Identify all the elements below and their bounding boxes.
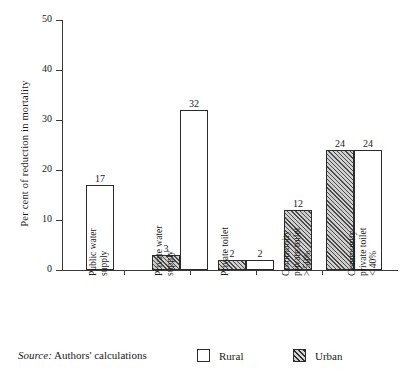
x-tick-1: [124, 271, 125, 275]
y-tick-label-20: 20: [42, 163, 52, 174]
category-label-community-private-toilet-over-50: Community private toilet > 50%: [281, 228, 313, 276]
legend-item-urban: Urban: [293, 349, 343, 362]
y-tick-label-50: 50: [42, 13, 52, 24]
category-line: > 50%: [302, 228, 313, 276]
category-line: Community: [347, 228, 358, 276]
source-note: Source: Authors' calculations: [18, 349, 147, 361]
category-label-community-private-toilet-under-40: Community private toilet < 40%: [347, 228, 379, 276]
legend-label-urban: Urban: [315, 350, 343, 362]
bar-private-water-supply-rural[interactable]: 32: [180, 110, 208, 270]
x-tick-4: [322, 271, 323, 275]
source-label: Source:: [18, 349, 52, 361]
category-line: supply: [99, 228, 110, 276]
y-axis-title: Per cent of reduction in mortality: [19, 54, 30, 254]
category-line: private toilet: [358, 228, 369, 276]
y-tick-0: 0: [56, 270, 62, 271]
category-label-private-toilet: Private toilet: [220, 227, 231, 276]
x-tick-3: [256, 271, 257, 275]
legend-swatch-urban-icon: [293, 349, 306, 362]
bar-private-toilet-rural[interactable]: 2: [246, 260, 274, 270]
y-tick-label-10: 10: [42, 213, 52, 224]
bar-value-label: 2: [258, 248, 263, 259]
bar-value-label: 12: [293, 198, 303, 209]
legend-label-rural: Rural: [219, 350, 243, 362]
legend-swatch-rural-icon: [197, 349, 210, 362]
legend-item-rural: Rural: [197, 349, 243, 362]
bar-value-label: 24: [335, 138, 345, 149]
category-line: < 40%: [368, 228, 379, 276]
category-label-public-water-supply: Public water supply: [88, 228, 109, 276]
category-line: Community: [281, 228, 292, 276]
bar-value-label: 24: [363, 138, 373, 149]
y-tick-label-30: 30: [42, 113, 52, 124]
y-tick-label-40: 40: [42, 63, 52, 74]
x-tick-2: [190, 271, 191, 275]
source-value: Authors' calculations: [54, 349, 147, 361]
bar-chart-figure: Per cent of reduction in mortality 0 10 …: [0, 0, 409, 380]
category-line: Private water: [154, 226, 165, 276]
y-tick-label-0: 0: [47, 263, 52, 274]
category-line: private toilet: [292, 228, 303, 276]
bar-value-label: 17: [95, 173, 105, 184]
category-line: Private toilet: [220, 227, 231, 276]
category-line: supply: [165, 226, 176, 276]
figure-footer: Source: Authors' calculations Rural Urba…: [0, 349, 409, 371]
category-label-private-water-supply: Private water supply: [154, 226, 175, 276]
category-line: Public water: [88, 228, 99, 276]
bar-value-label: 32: [189, 98, 199, 109]
